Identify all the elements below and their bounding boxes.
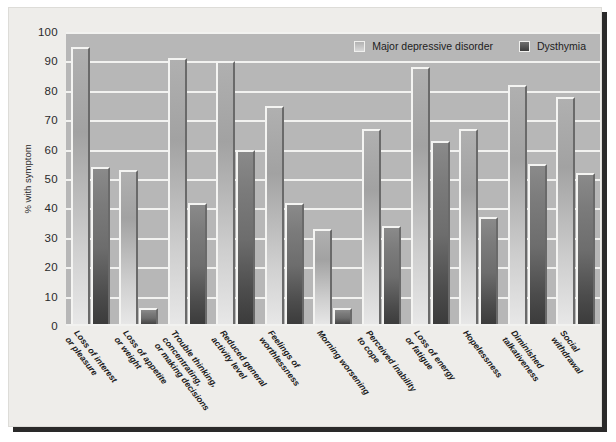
panel-shadow-right bbox=[602, 12, 607, 432]
y-tick-label: 10 bbox=[45, 291, 58, 303]
bars-layer bbox=[66, 32, 600, 326]
x-axis-label: Hopelessness bbox=[460, 328, 504, 380]
y-axis: % with symptom 1009080706050403020100 bbox=[9, 32, 64, 326]
bar bbox=[119, 170, 138, 326]
bar bbox=[508, 85, 527, 326]
bar bbox=[313, 229, 332, 326]
bar bbox=[556, 97, 575, 326]
bar bbox=[576, 173, 595, 326]
bar-group bbox=[212, 32, 261, 326]
legend: Major depressive disorderDysthymia bbox=[354, 40, 586, 52]
bar bbox=[236, 150, 255, 326]
legend-label: Dysthymia bbox=[537, 40, 586, 52]
legend-swatch-mdd bbox=[354, 41, 365, 52]
legend-entry: Major depressive disorder bbox=[354, 40, 493, 52]
bar bbox=[188, 203, 207, 326]
bar-group bbox=[260, 32, 309, 326]
bar-group bbox=[163, 32, 212, 326]
y-tick-label: 20 bbox=[45, 261, 58, 273]
x-axis-label: Loss of appetiteor weight bbox=[112, 328, 169, 393]
plot-area: Major depressive disorderDysthymia bbox=[66, 32, 600, 326]
bar-group bbox=[406, 32, 455, 326]
bar bbox=[168, 58, 187, 326]
y-tick-label: 50 bbox=[45, 173, 58, 185]
bar bbox=[382, 226, 401, 326]
bar-group bbox=[503, 32, 552, 326]
y-tick-label: 30 bbox=[45, 232, 58, 244]
bar-group bbox=[115, 32, 164, 326]
legend-swatch-dys bbox=[519, 41, 530, 52]
bar bbox=[528, 164, 547, 326]
bar bbox=[91, 167, 110, 326]
legend-label: Major depressive disorder bbox=[372, 40, 493, 52]
bar-group bbox=[551, 32, 600, 326]
bar-group bbox=[66, 32, 115, 326]
y-tick-label: 40 bbox=[45, 202, 58, 214]
bar bbox=[285, 203, 304, 326]
bar bbox=[411, 67, 430, 326]
y-tick-label: 0 bbox=[51, 320, 58, 332]
x-axis-label-line: Hopelessness bbox=[460, 328, 504, 380]
y-tick-label: 70 bbox=[45, 114, 58, 126]
figure-panel: % with symptom 1009080706050403020100 Ma… bbox=[8, 7, 602, 427]
y-tick-label: 60 bbox=[45, 144, 58, 156]
x-axis-label: Socialwithdrawal bbox=[549, 328, 593, 376]
y-tick-label: 80 bbox=[45, 85, 58, 97]
x-axis-baseline bbox=[66, 324, 600, 326]
legend-entry: Dysthymia bbox=[519, 40, 586, 52]
bar-group bbox=[454, 32, 503, 326]
bar bbox=[265, 106, 284, 327]
y-tick-label: 100 bbox=[38, 26, 58, 38]
bar bbox=[216, 61, 235, 326]
bar bbox=[71, 47, 90, 326]
bar bbox=[479, 217, 498, 326]
x-axis-label: Loss of interestor pleasure bbox=[64, 328, 120, 391]
x-axis-labels: Loss of interestor pleasureLoss of appet… bbox=[66, 328, 600, 428]
bar-group bbox=[309, 32, 358, 326]
y-axis-title: % with symptom bbox=[22, 109, 33, 249]
y-tick-label: 90 bbox=[45, 55, 58, 67]
bar bbox=[459, 129, 478, 326]
bar bbox=[362, 129, 381, 326]
bar bbox=[431, 141, 450, 326]
x-axis-label: Diminishedtalkativeness bbox=[501, 328, 551, 383]
chart-screenshot: % with symptom 1009080706050403020100 Ma… bbox=[0, 0, 616, 442]
bar-group bbox=[357, 32, 406, 326]
